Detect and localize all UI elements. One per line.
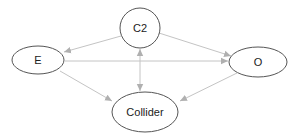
- node-collider[interactable]: Collider: [112, 92, 178, 132]
- node-o-label: O: [254, 56, 263, 68]
- node-o[interactable]: O: [229, 47, 287, 77]
- node-collider-label: Collider: [126, 106, 164, 118]
- edge-e-to-collider[interactable]: [60, 71, 112, 101]
- edge-c2-to-e[interactable]: [64, 36, 121, 52]
- node-c2-label: C2: [133, 22, 147, 34]
- node-e[interactable]: E: [12, 46, 64, 74]
- edge-o-to-collider[interactable]: [180, 73, 237, 101]
- edge-c2-to-o[interactable]: [159, 33, 231, 56]
- node-c2[interactable]: C2: [120, 8, 160, 48]
- node-e-label: E: [34, 54, 41, 66]
- causal-diagram: C2 E O Collider: [0, 0, 296, 138]
